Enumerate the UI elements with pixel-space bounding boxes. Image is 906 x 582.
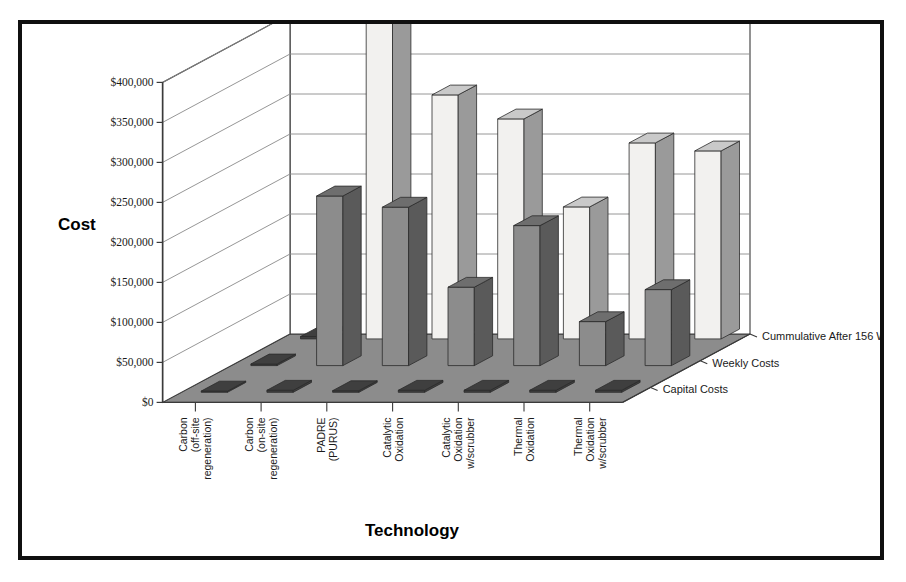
x-axis-category-labels: Carbon(off-siteregeneration)Carbon(on-si… — [177, 417, 607, 480]
bar-side-face — [409, 197, 427, 365]
y-tick-label: $200,000 — [110, 236, 153, 249]
x-category-label: PADRE(PURUS) — [315, 417, 339, 461]
x-category-label-line: Catalytic — [381, 417, 393, 457]
bar-front-face — [579, 322, 605, 366]
series-label: Capital Costs — [663, 383, 729, 395]
x-category-label-line: regeneration) — [267, 417, 279, 479]
y-tick-label: $150,000 — [110, 276, 153, 289]
series-label: Weekly Costs — [712, 357, 780, 369]
bar-side-face — [721, 141, 739, 339]
x-category-label: CatalyticOxidation — [381, 417, 405, 462]
bar-front-face — [645, 290, 671, 366]
x-category-label-line: (off-site — [189, 417, 201, 452]
bar-1-6 — [645, 280, 690, 366]
series-label: Cummulative After 156 Weeks — [762, 330, 880, 342]
x-category-label-line: Oxidation — [452, 417, 464, 462]
x-category-label-line: Oxidation — [393, 417, 405, 462]
y-axis-title: Cost — [58, 215, 96, 234]
bar-1-3 — [448, 277, 493, 365]
bar-1-1 — [317, 186, 362, 366]
bar-0-6 — [695, 141, 740, 339]
y-axis-tick-labels: $0$50,000$100,000$150,000$200,000$250,00… — [110, 76, 153, 408]
bar-side-face — [343, 186, 361, 366]
y-tick-label: $400,000 — [110, 76, 153, 89]
x-category-label-line: (PURUS) — [327, 417, 339, 461]
x-category-label-line: Oxidation — [584, 417, 596, 462]
x-category-label: ThermalOxidationw/scrubber — [572, 417, 608, 470]
y-tick-label: $350,000 — [110, 116, 153, 129]
x-category-label-line: w/scrubber — [596, 417, 608, 470]
x-category-label-line: PADRE — [315, 417, 327, 452]
x-axis-title: Technology — [365, 521, 460, 540]
x-category-label: ThermalOxidation — [512, 417, 536, 462]
x-category-label-line: Carbon — [177, 417, 189, 452]
depth-tick-mark — [700, 361, 707, 364]
x-category-label-line: Thermal — [512, 417, 524, 456]
bar-side-face — [540, 216, 558, 366]
x-category-label-line: (on-site — [255, 417, 267, 452]
bar-1-4 — [514, 216, 559, 366]
depth-tick-mark — [750, 334, 757, 337]
y-tick-label: $300,000 — [110, 156, 153, 169]
x-category-label-line: Oxidation — [524, 417, 536, 462]
depth-tick-mark — [651, 387, 658, 390]
x-category-label: CatalyticOxidationw/scrubber — [440, 417, 476, 470]
bar-front-face — [514, 226, 540, 366]
bar-1-5 — [579, 312, 624, 366]
bar-side-face — [474, 277, 492, 365]
y-tick-label: $250,000 — [110, 196, 153, 209]
y-tick-label: $100,000 — [110, 316, 153, 329]
y-tick-label: $0 — [142, 396, 154, 408]
x-category-label: Carbon(on-siteregeneration) — [243, 417, 279, 480]
bar-front-face — [448, 287, 474, 365]
x-category-label-line: w/scrubber — [464, 417, 476, 470]
bar-side-face — [671, 280, 689, 366]
x-category-label-line: Catalytic — [440, 417, 452, 457]
cost-by-technology-3d-bar-chart: $0$50,000$100,000$150,000$200,000$250,00… — [22, 24, 880, 556]
x-category-label-line: Carbon — [243, 417, 255, 452]
bar-front-face — [695, 151, 721, 339]
x-category-label: Carbon(off-siteregeneration) — [177, 417, 213, 480]
chart-screenshot: $0$50,000$100,000$150,000$200,000$250,00… — [0, 0, 906, 582]
x-category-label-line: Thermal — [572, 417, 584, 456]
bar-front-face — [382, 207, 408, 365]
x-category-label-line: regeneration) — [201, 417, 213, 479]
bar-front-face — [317, 196, 343, 366]
y-tick-label: $50,000 — [116, 356, 154, 369]
chart-frame: $0$50,000$100,000$150,000$200,000$250,00… — [18, 20, 884, 560]
bar-1-2 — [382, 197, 427, 365]
